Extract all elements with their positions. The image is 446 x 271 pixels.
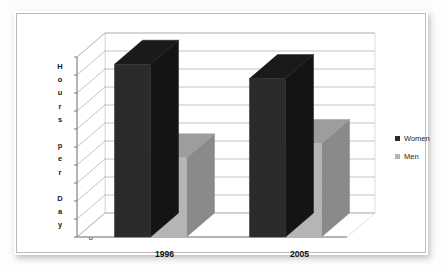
- legend-item-women[interactable]: Women: [395, 134, 430, 143]
- x-axis-category-label: 2005: [290, 249, 309, 259]
- legend-label-men: Men: [404, 152, 419, 161]
- legend-item-men[interactable]: Men: [395, 152, 430, 161]
- plot-area: [17, 14, 427, 254]
- chart-frame: H o u r s p e r D a y 00.511.522.533.544…: [16, 13, 426, 253]
- legend-swatch-women: [395, 136, 400, 141]
- x-axis-category-label: 1996: [155, 249, 174, 259]
- chart-legend: Women Men: [395, 134, 430, 170]
- legend-swatch-men: [395, 154, 400, 159]
- scanned-page: H o u r s p e r D a y 00.511.522.533.544…: [0, 0, 446, 271]
- legend-label-women: Women: [404, 134, 430, 143]
